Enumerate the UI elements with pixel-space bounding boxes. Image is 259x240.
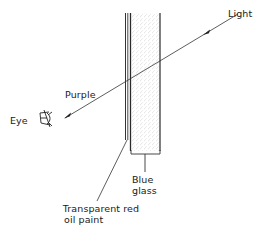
arrowhead-icon (203, 30, 210, 36)
eye-label: Eye (10, 115, 28, 126)
red-oil-paint-layer (126, 13, 128, 140)
eye-icon (40, 110, 52, 127)
red-paint-label-line1: Transparent red (61, 203, 141, 214)
blue-glass (130, 13, 160, 151)
blue-glass-label-line1: Blue (132, 174, 157, 185)
red-paint-label-line2: oil paint (61, 214, 141, 225)
blue-glass-leader (131, 150, 160, 172)
blue-glass-label-line2: glass (132, 185, 157, 196)
blue-glass-label: Blue glass (132, 174, 157, 196)
light-label: Light (228, 8, 252, 19)
purple-label: Purple (65, 89, 96, 100)
red-paint-leader (97, 140, 127, 201)
red-paint-label: Transparent red oil paint (61, 203, 141, 225)
arrowhead-icon (64, 113, 71, 119)
